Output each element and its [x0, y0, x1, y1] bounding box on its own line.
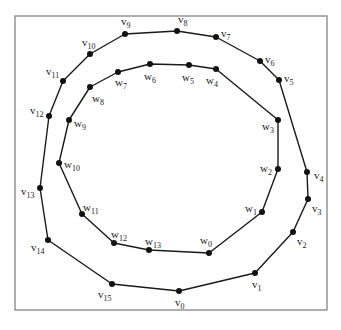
vertex-w6	[147, 61, 153, 67]
vertex-v7	[213, 34, 219, 40]
vertex-v9	[122, 31, 128, 37]
vertex-v13	[37, 185, 43, 191]
vertex-w0	[206, 250, 212, 256]
vertex-w7	[115, 69, 121, 75]
vertex-v15	[109, 281, 115, 287]
vertex-w3	[275, 117, 281, 123]
vertex-v10	[87, 51, 93, 57]
vertex-w9	[66, 117, 72, 123]
vertex-v3	[305, 196, 311, 202]
diagram-canvas: v0v1v2v3v4v5v6v7v8v9v10v11v12v13v14v15 w…	[0, 0, 341, 330]
polygon-diagram: v0v1v2v3v4v5v6v7v8v9v10v11v12v13v14v15 w…	[0, 0, 341, 330]
vertex-v0	[176, 288, 182, 294]
vertex-w12	[111, 240, 117, 246]
vertex-v6	[257, 58, 263, 64]
vertex-w1	[259, 209, 265, 215]
vertex-v11	[60, 78, 66, 84]
vertex-v1	[252, 270, 258, 276]
vertex-v12	[46, 113, 52, 119]
vertex-w10	[56, 160, 62, 166]
vertex-w8	[87, 84, 93, 90]
vertex-w4	[213, 66, 219, 72]
vertex-v4	[304, 169, 310, 175]
vertex-v5	[276, 77, 282, 83]
vertex-w13	[146, 247, 152, 253]
vertex-v2	[290, 229, 296, 235]
vertex-v14	[45, 237, 51, 243]
vertex-w2	[275, 166, 281, 172]
vertex-w5	[186, 62, 192, 68]
vertex-v8	[174, 28, 180, 34]
